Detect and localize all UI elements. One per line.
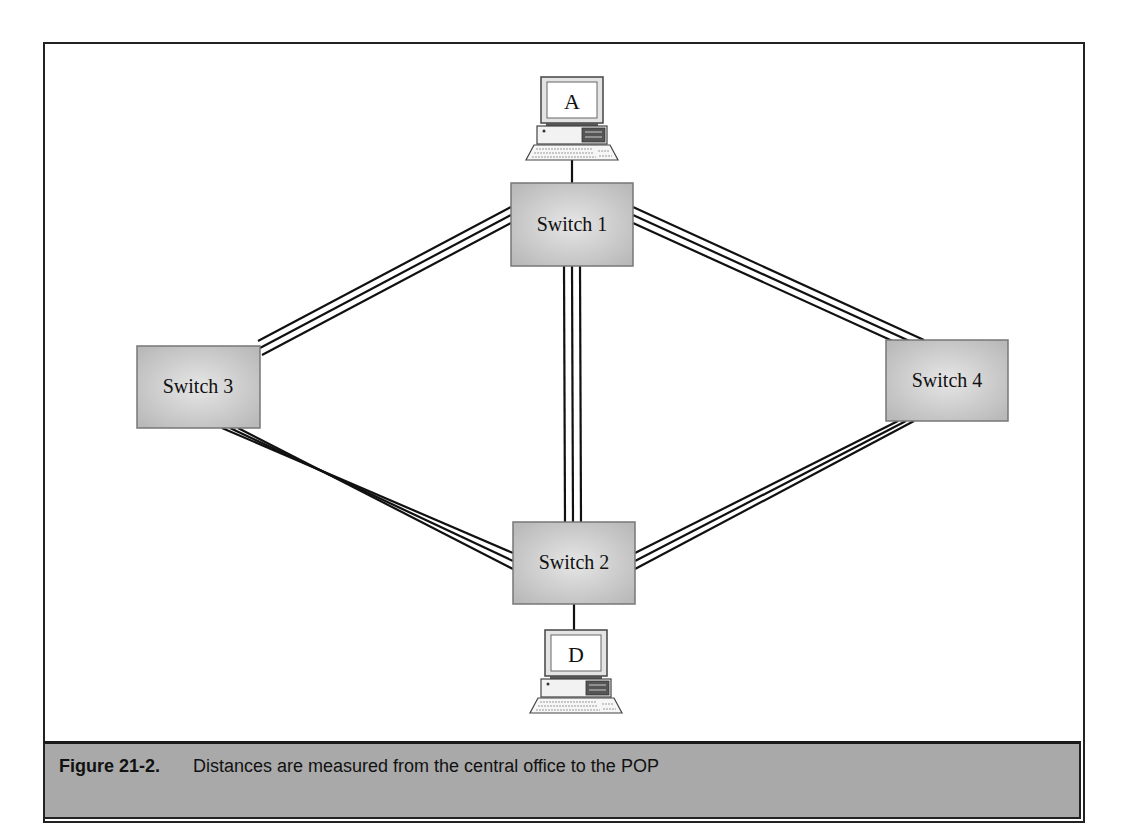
switch-4[interactable]: Switch 4 bbox=[886, 340, 1008, 421]
figure-number: Figure 21-2. bbox=[59, 756, 193, 777]
caption-row: Figure 21-2.Distances are measured from … bbox=[59, 756, 659, 777]
link-switch1-switch2 bbox=[564, 266, 581, 522]
figure-caption: Figure 21-2.Distances are measured from … bbox=[43, 741, 1081, 819]
link-switch4-switch2 bbox=[635, 421, 914, 569]
switch-4-label: Switch 4 bbox=[912, 369, 983, 391]
computer-d-label: D bbox=[568, 642, 584, 667]
switch-2-label: Switch 2 bbox=[539, 551, 610, 573]
link-switch1-switch4 bbox=[633, 207, 924, 348]
computer-d[interactable]: D bbox=[530, 630, 622, 713]
network-diagram: Switch 1 Switch 3 Switch 4 Switch 2 bbox=[0, 0, 1142, 834]
switch-1-label: Switch 1 bbox=[537, 213, 608, 235]
switch-3[interactable]: Switch 3 bbox=[137, 346, 260, 428]
switch-2[interactable]: Switch 2 bbox=[513, 522, 635, 604]
switch-1[interactable]: Switch 1 bbox=[511, 183, 633, 266]
computer-a[interactable]: A bbox=[526, 77, 618, 160]
link-switch3-switch2 bbox=[222, 428, 513, 569]
switch-3-label: Switch 3 bbox=[163, 375, 234, 397]
link-switch1-switch3 bbox=[258, 207, 511, 355]
computer-a-label: A bbox=[564, 89, 580, 114]
caption-text: Distances are measured from the central … bbox=[193, 756, 659, 776]
